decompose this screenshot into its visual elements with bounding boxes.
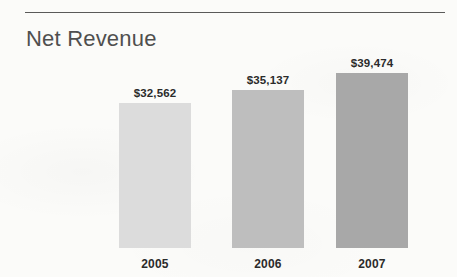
bar-value-label-2006: $35,137 [213, 74, 323, 86]
chart-plot-area: $32,562 2005 $35,137 2006 $39,474 2007 [0, 0, 457, 277]
bar-2007 [336, 73, 408, 248]
bar-category-label-2006: 2006 [213, 257, 323, 271]
bar-category-label-2005: 2005 [100, 257, 210, 271]
net-revenue-chart-figure: Net Revenue $32,562 2005 $35,137 2006 $3… [0, 0, 457, 277]
bar-category-label-2007: 2007 [317, 257, 427, 271]
bar-value-label-2007: $39,474 [317, 57, 427, 69]
bar-2005 [119, 103, 191, 248]
bar-2006 [232, 90, 304, 248]
bar-value-label-2005: $32,562 [100, 87, 210, 99]
